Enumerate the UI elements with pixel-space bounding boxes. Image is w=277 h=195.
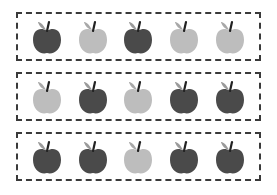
apple-group-box <box>16 132 261 181</box>
dark-apple-icon <box>214 138 246 176</box>
dark-apple-icon <box>122 18 154 56</box>
dark-apple-icon <box>77 138 109 176</box>
dark-apple-icon <box>168 78 200 116</box>
light-apple-icon <box>122 78 154 116</box>
dark-apple-icon <box>168 138 200 176</box>
light-apple-icon <box>77 18 109 56</box>
dark-apple-icon <box>31 18 63 56</box>
apple-group-box <box>16 72 261 121</box>
apple-group-box <box>16 12 261 61</box>
dark-apple-icon <box>77 78 109 116</box>
light-apple-icon <box>31 78 63 116</box>
dark-apple-icon <box>214 78 246 116</box>
light-apple-icon <box>122 138 154 176</box>
light-apple-icon <box>214 18 246 56</box>
light-apple-icon <box>168 18 200 56</box>
dark-apple-icon <box>31 138 63 176</box>
